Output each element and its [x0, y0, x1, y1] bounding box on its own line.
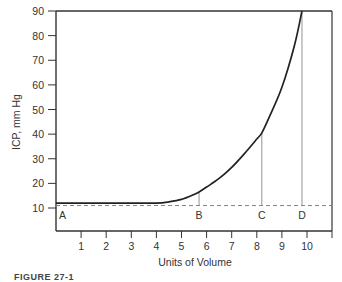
y-axis-ticks: 102030405060708090	[32, 5, 56, 214]
y-tick-label: 40	[32, 128, 44, 140]
x-tick-label: 1	[78, 240, 84, 252]
x-tick-label: 8	[254, 240, 260, 252]
y-tick-label: 80	[32, 30, 44, 42]
y-tick-label: 90	[32, 5, 44, 17]
y-tick-label: 70	[32, 54, 44, 66]
x-tick-label: 5	[179, 240, 185, 252]
y-tick-label: 30	[32, 153, 44, 165]
point-labels: ABCD	[59, 209, 306, 221]
x-tick-label: 9	[279, 240, 285, 252]
x-tick-label: 7	[229, 240, 235, 252]
x-tick-label: 2	[103, 240, 109, 252]
y-tick-label: 50	[32, 104, 44, 116]
x-tick-label: 3	[128, 240, 134, 252]
y-axis-title: ICP, mm Hg	[10, 94, 22, 150]
x-axis-title: Units of Volume	[158, 256, 232, 268]
x-tick-label: 4	[153, 240, 159, 252]
pressure-volume-curve	[56, 11, 302, 203]
y-tick-label: 60	[32, 79, 44, 91]
figure-caption: FIGURE 27-1	[14, 272, 74, 282]
point-label-b: B	[196, 209, 203, 221]
y-tick-label: 20	[32, 177, 44, 189]
x-tick-label: 6	[204, 240, 210, 252]
point-label-c: C	[258, 209, 266, 221]
x-tick-label: 10	[301, 240, 313, 252]
x-axis-ticks: 12345678910	[78, 231, 332, 252]
point-label-d: D	[298, 209, 306, 221]
point-label-a: A	[59, 209, 66, 221]
plot-frame	[56, 11, 332, 231]
drop-lines	[199, 11, 302, 206]
y-tick-label: 10	[32, 202, 44, 214]
